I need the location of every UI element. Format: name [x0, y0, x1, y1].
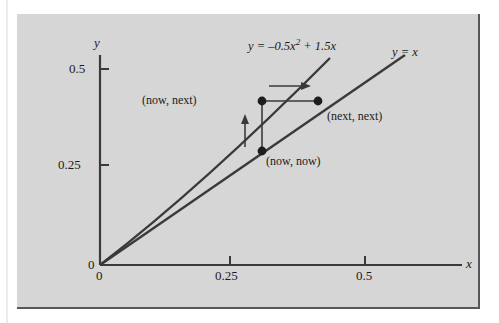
- point-label-next-next: (next, next): [327, 110, 382, 122]
- x-tick-label-0.25: 0.25: [215, 269, 238, 282]
- origin-label-y: 0: [88, 258, 95, 271]
- y-tick-label-0.25: 0.25: [58, 158, 81, 171]
- figure-page: y x 0 0 0.5 0.25 0.25 0.5 y = –0.5x2 + 1…: [0, 0, 499, 323]
- page-edge-artifact: [6, 0, 8, 323]
- vertical-arrow-head: [241, 114, 249, 124]
- figure-panel: y x 0 0 0.5 0.25 0.25 0.5 y = –0.5x2 + 1…: [17, 14, 480, 309]
- identity-line-label: y = x: [392, 46, 418, 59]
- point-next-next: [314, 97, 323, 106]
- x-axis-name: x: [466, 257, 472, 270]
- parabola-label-suffix: + 1.5x: [300, 39, 336, 53]
- parabola-curve-label: y = –0.5x2 + 1.5x: [248, 38, 336, 53]
- origin-label-x: 0: [96, 269, 103, 282]
- point-label-now-next: (now, next): [142, 94, 197, 106]
- y-tick-label-0.5: 0.5: [69, 62, 85, 75]
- point-now-next: [258, 97, 267, 106]
- y-axis-name: y: [94, 36, 100, 49]
- x-tick-label-0.5: 0.5: [356, 269, 372, 282]
- parabola-label-prefix: y = –0.5x: [248, 39, 296, 53]
- point-label-now-now: (now, now): [266, 155, 321, 167]
- identity-line: [100, 55, 405, 265]
